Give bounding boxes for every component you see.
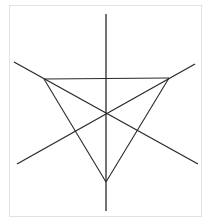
diagram-canvas — [0, 0, 213, 220]
triangle-side-3 — [44, 79, 106, 182]
triangle-side-2 — [106, 78, 169, 182]
triangle-lines-figure — [0, 0, 213, 220]
triangle-side-1 — [44, 78, 169, 79]
